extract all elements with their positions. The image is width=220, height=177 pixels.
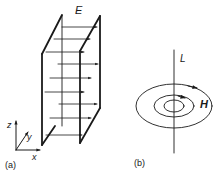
figure: E z y x (a) L H (b) (0, 0, 220, 177)
right-plate (80, 16, 100, 143)
h-field-label: H (200, 98, 209, 110)
x-axis-label: x (31, 152, 37, 162)
panel-b-label: (b) (134, 158, 145, 168)
z-axis-label: z (6, 120, 12, 130)
coordinate-axes: z y x (6, 120, 40, 162)
panel-a: E z y x (a) (5, 4, 100, 170)
line-label: L (180, 53, 186, 64)
e-field-arrows (45, 27, 98, 135)
e-field-label: E (75, 4, 83, 16)
y-axis-label: y (26, 132, 32, 142)
panel-a-label: (a) (5, 160, 16, 170)
left-plate (42, 15, 62, 145)
panel-b: L H (b) (134, 50, 212, 168)
